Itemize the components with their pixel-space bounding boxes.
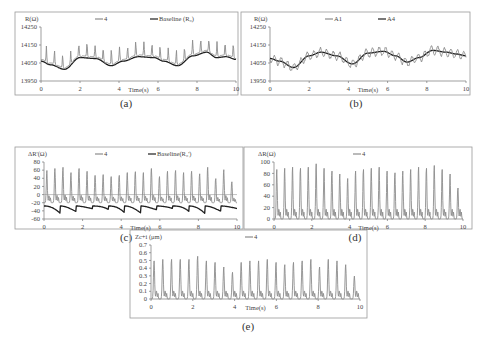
series-line-baseline bbox=[44, 206, 237, 213]
x-tick-label: 8 bbox=[195, 85, 198, 92]
x-axis-label: Time(s) bbox=[128, 86, 148, 94]
x-tick-label: 6 bbox=[275, 303, 279, 310]
legend-label: A1 bbox=[334, 15, 342, 22]
x-tick-label: 10 bbox=[234, 223, 241, 230]
chart-caption: (c) bbox=[120, 231, 133, 244]
y-axis-label: R(Ω) bbox=[25, 15, 39, 23]
x-tick-label: 4 bbox=[233, 303, 237, 310]
x-tick-label: 2 bbox=[191, 303, 194, 310]
y-tick-label: 20 bbox=[264, 204, 271, 211]
series-line-a1 bbox=[270, 46, 466, 71]
x-tick-label: 0 bbox=[42, 223, 45, 230]
x-axis-label: Time(s) bbox=[245, 304, 265, 312]
x-tick-label: 6 bbox=[386, 85, 390, 92]
chart-e: 00.10.20.30.40.50.60.70246810Time(s)Zc+i… bbox=[130, 230, 367, 333]
y-tick-label: 60 bbox=[34, 166, 41, 173]
chart-caption: (d) bbox=[349, 231, 362, 244]
figure: 139501405014150142500246810Time(s)R(Ω)4B… bbox=[0, 0, 485, 343]
chart-frame bbox=[15, 12, 238, 95]
chart-a: 139501405014150142500246810Time(s)R(Ω)4B… bbox=[15, 12, 239, 110]
legend-label: 4 bbox=[104, 15, 108, 22]
y-tick-label: 0.5 bbox=[139, 257, 147, 264]
x-tick-label: 4 bbox=[347, 85, 351, 92]
y-tick-label: 80 bbox=[34, 158, 41, 165]
chart-caption: (e) bbox=[242, 320, 255, 333]
x-tick-label: 10 bbox=[463, 85, 470, 92]
y-tick-label: 0 bbox=[144, 295, 147, 302]
x-tick-label: 0 bbox=[149, 303, 152, 310]
y-tick-label: 13950 bbox=[250, 77, 266, 84]
x-tick-label: 8 bbox=[425, 85, 428, 92]
x-tick-label: 4 bbox=[117, 85, 121, 92]
chart-caption: (b) bbox=[350, 97, 363, 110]
y-tick-label: 14250 bbox=[250, 23, 266, 30]
y-tick-label: 60 bbox=[264, 181, 271, 188]
y-tick-label: 14150 bbox=[250, 41, 266, 48]
x-tick-label: 2 bbox=[78, 85, 81, 92]
y-tick-label: 0.3 bbox=[139, 272, 147, 279]
y-tick-label: 14250 bbox=[21, 23, 37, 30]
y-tick-label: 0.4 bbox=[139, 264, 148, 271]
y-tick-label: 0.1 bbox=[139, 287, 147, 294]
y-tick-label: -60 bbox=[31, 215, 40, 222]
legend-label: 4 bbox=[254, 233, 258, 240]
y-tick-label: 14150 bbox=[21, 41, 37, 48]
series-line-4 bbox=[151, 256, 360, 299]
y-tick-label: 0.7 bbox=[139, 241, 148, 248]
x-tick-label: 8 bbox=[424, 223, 427, 230]
x-tick-label: 10 bbox=[460, 223, 467, 230]
x-tick-label: 10 bbox=[357, 303, 364, 310]
chart-d: 0204060801000246810Time(s)ΔR(Ω)4(d) bbox=[244, 147, 472, 244]
x-tick-label: 8 bbox=[197, 223, 200, 230]
y-tick-label: 40 bbox=[264, 192, 271, 199]
x-tick-label: 0 bbox=[268, 85, 271, 92]
series-line-4 bbox=[41, 40, 236, 69]
x-tick-label: 2 bbox=[308, 85, 311, 92]
y-axis-label: Zc+i (μm) bbox=[135, 233, 162, 241]
chart-b: 139501405014150142500246810Time(s)R(Ω)A1… bbox=[241, 12, 470, 110]
y-axis-label: R(Ω) bbox=[254, 15, 268, 23]
x-axis-label: Time(s) bbox=[358, 86, 378, 94]
y-tick-label: 80 bbox=[264, 170, 271, 177]
y-tick-label: 0.6 bbox=[139, 249, 148, 256]
x-tick-label: 10 bbox=[233, 85, 240, 92]
legend-label: 4 bbox=[362, 150, 366, 157]
legend-label: Baseline(R₀') bbox=[157, 150, 191, 158]
y-tick-label: 0 bbox=[37, 191, 40, 198]
x-tick-label: 6 bbox=[156, 85, 160, 92]
y-tick-label: 100 bbox=[260, 158, 270, 165]
chart-c: -60-40-200204060800246810Time(s)ΔR'(Ω)4B… bbox=[15, 147, 243, 244]
legend-label: Baseline (R₀) bbox=[159, 15, 194, 23]
y-tick-label: 14050 bbox=[21, 59, 37, 66]
legend-label: A4 bbox=[387, 15, 396, 22]
y-tick-label: 40 bbox=[34, 174, 41, 181]
series-line-4 bbox=[274, 164, 463, 219]
x-tick-label: 8 bbox=[317, 303, 320, 310]
y-tick-label: -20 bbox=[31, 199, 40, 206]
series-line-4 bbox=[44, 167, 237, 202]
x-tick-label: 0 bbox=[272, 223, 275, 230]
y-tick-label: 0 bbox=[267, 215, 270, 222]
x-tick-label: 2 bbox=[310, 223, 313, 230]
y-tick-label: 20 bbox=[34, 183, 41, 190]
y-tick-label: -40 bbox=[31, 207, 40, 214]
x-axis-label: Time(s) bbox=[130, 224, 150, 232]
chart-caption: (a) bbox=[120, 97, 133, 110]
x-tick-label: 2 bbox=[81, 223, 84, 230]
y-tick-label: 0.2 bbox=[139, 280, 147, 287]
y-tick-label: 13950 bbox=[21, 77, 37, 84]
legend-label: 4 bbox=[104, 150, 108, 157]
y-axis-label: ΔR'(Ω) bbox=[28, 150, 47, 158]
x-tick-label: 0 bbox=[39, 85, 42, 92]
y-axis-label: ΔR(Ω) bbox=[258, 150, 276, 158]
y-tick-label: 14050 bbox=[250, 59, 266, 66]
